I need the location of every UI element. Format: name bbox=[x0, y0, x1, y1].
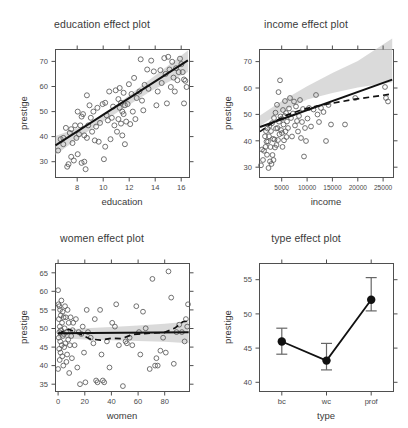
svg-text:50: 50 bbox=[40, 107, 48, 116]
y-axis-ticks bbox=[256, 280, 260, 383]
svg-text:8: 8 bbox=[75, 183, 79, 192]
svg-text:60: 60 bbox=[134, 397, 142, 406]
svg-text:40: 40 bbox=[40, 361, 48, 370]
svg-text:16: 16 bbox=[177, 183, 185, 192]
y-axis-ticks bbox=[52, 61, 56, 161]
fit-line bbox=[58, 332, 189, 333]
x-axis-ticks bbox=[77, 178, 181, 182]
svg-text:45: 45 bbox=[244, 344, 252, 353]
y-axis-ticks-right bbox=[394, 280, 398, 383]
panel-income: income effect plot bbox=[204, 0, 408, 214]
svg-text:30: 30 bbox=[40, 157, 48, 166]
y-axis-label: prestige bbox=[222, 96, 233, 130]
svg-text:bc: bc bbox=[278, 397, 286, 406]
svg-text:5000: 5000 bbox=[274, 184, 289, 191]
y-tick-labels: 30 40 50 60 70 bbox=[40, 57, 48, 166]
svg-text:60: 60 bbox=[40, 287, 48, 296]
y-tick-labels: 40 45 50 55 bbox=[244, 275, 252, 387]
women-plot-svg: 0 20 40 60 80 35 40 45 50 55 60 65 women… bbox=[0, 214, 204, 428]
svg-text:prof: prof bbox=[365, 397, 379, 406]
x-axis-ticks-top bbox=[58, 260, 165, 264]
x-axis-ticks bbox=[282, 392, 371, 396]
y-axis-label: prestige bbox=[222, 310, 233, 344]
svg-text:50: 50 bbox=[40, 324, 48, 333]
svg-text:20: 20 bbox=[81, 397, 89, 406]
svg-text:25000: 25000 bbox=[374, 184, 393, 191]
y-axis-ticks-right bbox=[190, 61, 194, 161]
x-axis-label: women bbox=[106, 410, 138, 421]
x-axis-ticks-top bbox=[282, 46, 383, 50]
income-plot-svg: 5000 10000 15000 20000 25000 30 40 50 60… bbox=[204, 0, 408, 214]
svg-text:50: 50 bbox=[244, 110, 252, 119]
svg-text:60: 60 bbox=[244, 84, 252, 93]
svg-text:55: 55 bbox=[40, 306, 48, 315]
x-axis-label: income bbox=[311, 196, 342, 207]
x-axis-ticks bbox=[282, 178, 383, 182]
svg-text:15000: 15000 bbox=[323, 184, 342, 191]
error-bars bbox=[276, 278, 376, 370]
panel-type: type effect plot bbox=[204, 214, 408, 428]
svg-text:80: 80 bbox=[160, 397, 168, 406]
svg-text:30: 30 bbox=[244, 163, 252, 172]
svg-text:35: 35 bbox=[40, 380, 48, 389]
svg-text:40: 40 bbox=[107, 397, 115, 406]
svg-text:70: 70 bbox=[244, 57, 252, 66]
y-axis-label: prestige bbox=[18, 310, 29, 344]
svg-text:10000: 10000 bbox=[298, 184, 317, 191]
svg-text:0: 0 bbox=[56, 397, 60, 406]
panel-education: education effect plot bbox=[0, 0, 204, 214]
y-axis-ticks-right bbox=[394, 62, 398, 168]
education-plot-svg: 8 10 12 14 16 30 40 50 60 70 education p… bbox=[0, 0, 204, 214]
y-axis-ticks bbox=[52, 273, 56, 384]
x-axis-ticks bbox=[58, 392, 165, 396]
svg-text:40: 40 bbox=[244, 137, 252, 146]
x-axis-ticks-top bbox=[77, 46, 181, 50]
svg-text:14: 14 bbox=[151, 183, 159, 192]
x-tick-labels: bc wc prof bbox=[278, 397, 379, 406]
svg-text:70: 70 bbox=[40, 57, 48, 66]
svg-text:10: 10 bbox=[99, 183, 107, 192]
svg-text:60: 60 bbox=[40, 82, 48, 91]
svg-text:55: 55 bbox=[244, 275, 252, 284]
svg-text:45: 45 bbox=[40, 343, 48, 352]
x-axis-ticks-top bbox=[282, 260, 371, 264]
x-tick-labels: 0 20 40 60 80 bbox=[56, 397, 169, 406]
y-axis-ticks bbox=[256, 62, 260, 168]
effect-plots-figure: education effect plot bbox=[0, 0, 408, 428]
svg-text:40: 40 bbox=[244, 378, 252, 387]
plot-frame bbox=[260, 264, 394, 392]
y-axis-ticks-right bbox=[190, 273, 194, 384]
x-axis-label: education bbox=[101, 196, 142, 207]
svg-text:12: 12 bbox=[125, 183, 133, 192]
svg-text:65: 65 bbox=[40, 269, 48, 278]
svg-text:40: 40 bbox=[40, 132, 48, 141]
x-axis-label: type bbox=[317, 410, 335, 421]
type-plot-svg: bc wc prof 40 45 50 55 type prestige bbox=[204, 214, 408, 428]
panel-women: women effect plot bbox=[0, 214, 204, 428]
x-tick-labels: 5000 10000 15000 20000 25000 bbox=[274, 184, 392, 191]
y-axis-label: prestige bbox=[18, 96, 29, 130]
y-tick-labels: 30 40 50 60 70 bbox=[244, 57, 252, 172]
y-tick-labels: 35 40 45 50 55 60 65 bbox=[40, 269, 48, 389]
svg-text:20000: 20000 bbox=[349, 184, 368, 191]
svg-text:50: 50 bbox=[244, 310, 252, 319]
x-tick-labels: 8 10 12 14 16 bbox=[75, 183, 185, 192]
svg-text:wc: wc bbox=[321, 397, 331, 406]
